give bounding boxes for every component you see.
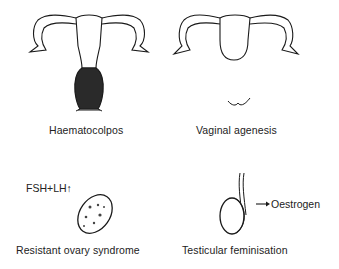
- oestrogen-label: Oestrogen: [271, 198, 320, 210]
- caption-resistant-ovary: Resistant ovary syndrome: [16, 244, 140, 256]
- caption-testicular-feminisation: Testicular feminisation: [182, 244, 288, 256]
- vaginal-agenesis-figure: Vaginal agenesis: [170, 0, 339, 135]
- resistant-ovary-figure: FSH+LH↑ Resistant ovary syndrome: [0, 135, 170, 269]
- uterus-without-vagina-icon: [170, 0, 339, 135]
- testicular-feminisation-figure: Oestrogen Testicular feminisation: [170, 135, 339, 269]
- haematocolpos-figure: Haematocolpos: [0, 0, 170, 135]
- uterus-with-haematocolpos-icon: [0, 0, 170, 135]
